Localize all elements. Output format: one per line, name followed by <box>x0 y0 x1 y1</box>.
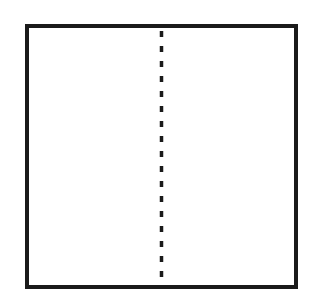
divided-square-diagram <box>0 0 311 298</box>
